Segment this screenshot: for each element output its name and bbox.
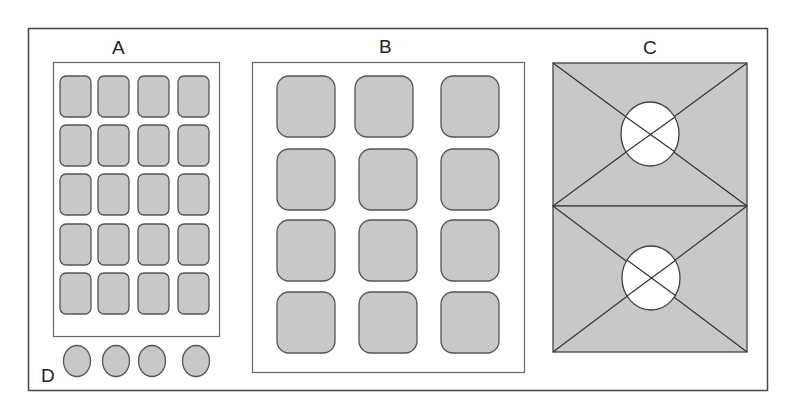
grid-cell-b [441, 220, 499, 281]
grid-cell-a [138, 174, 169, 215]
panel-c-label: C [643, 37, 657, 58]
grid-cell-a [98, 125, 129, 166]
image-placeholder-top [553, 63, 747, 206]
grid-cell-a [178, 273, 209, 314]
grid-cell-b [277, 292, 335, 353]
grid-cell-a [98, 273, 129, 314]
circle-d [103, 346, 130, 377]
grid-cell-b [359, 149, 417, 210]
panel-d: D [41, 346, 210, 387]
grid-cell-a [178, 76, 209, 117]
panel-a: A [54, 37, 220, 337]
grid-cell-a [138, 125, 169, 166]
panel-a-grid [60, 76, 209, 314]
image-placeholder-bottom [553, 206, 747, 352]
grid-cell-a [98, 76, 129, 117]
layout-diagram: A D B C [0, 0, 793, 405]
circle-d [64, 346, 91, 377]
grid-cell-a [60, 125, 91, 166]
panel-b-grid [277, 76, 499, 353]
grid-cell-a [98, 224, 129, 265]
grid-cell-a [60, 76, 91, 117]
grid-cell-a [178, 224, 209, 265]
circle-d [183, 346, 210, 377]
panel-c: C [553, 37, 747, 352]
panel-b-label: B [379, 36, 392, 57]
grid-cell-b [441, 149, 499, 210]
grid-cell-a [98, 174, 129, 215]
panel-d-label: D [41, 365, 55, 386]
grid-cell-b [359, 292, 417, 353]
grid-cell-a [178, 174, 209, 215]
grid-cell-a [138, 273, 169, 314]
panel-b: B [253, 36, 525, 373]
grid-cell-b [277, 220, 335, 281]
circle-d [139, 346, 166, 377]
grid-cell-a [60, 174, 91, 215]
grid-cell-b [441, 292, 499, 353]
panel-d-circles [64, 346, 210, 377]
grid-cell-b [359, 220, 417, 281]
grid-cell-a [60, 224, 91, 265]
grid-cell-a [60, 273, 91, 314]
grid-cell-b [441, 76, 499, 137]
grid-cell-b [277, 149, 335, 210]
grid-cell-a [138, 76, 169, 117]
panel-a-label: A [112, 37, 125, 58]
grid-cell-a [138, 224, 169, 265]
grid-cell-b [277, 76, 335, 137]
grid-cell-b [355, 76, 413, 137]
grid-cell-a [178, 125, 209, 166]
